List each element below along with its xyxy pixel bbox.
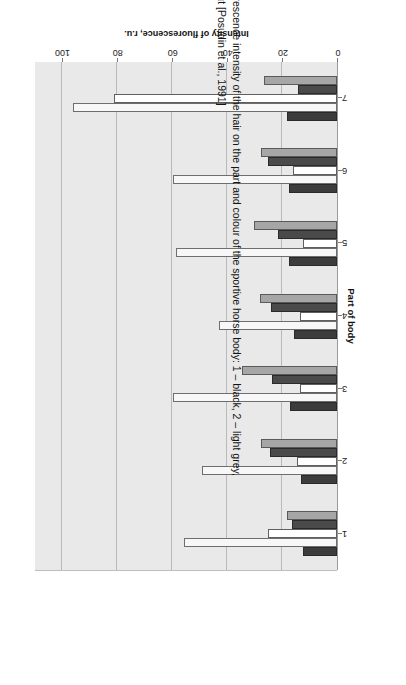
value-axis-tick-label: 0 (335, 48, 340, 58)
caption-text-1: Dependence of the fluorescence intensity… (231, 0, 243, 476)
category-axis-tick-mark (338, 97, 342, 98)
value-axis-tick-label: 20 (278, 48, 288, 58)
category-axis-tick-label: 7 (342, 93, 356, 103)
chart-rotated-wrapper: Part of body Intensity of fluorescence, … (0, 0, 360, 685)
value-axis-tick-mark (172, 58, 173, 62)
category-axis-tick-label: 3 (342, 384, 356, 394)
category-axis-tick-label: 4 (342, 311, 356, 321)
figure-caption: Fig. 7.17Dependence of the fluorescence … (214, 0, 244, 481)
category-axis-title: Part of body (98, 62, 406, 570)
category-axis-tick-label: 6 (342, 166, 356, 176)
category-axis-tick-mark (338, 533, 342, 534)
category-axis-tick-mark (338, 242, 342, 243)
category-axis-tick-label: 1 (342, 529, 356, 539)
value-axis-tick-label: 80 (113, 48, 123, 58)
caption-line-2: 3 – dark grey, 4 – bay, 5 – chestnut [Po… (214, 0, 229, 481)
value-axis-tick-mark (337, 58, 338, 62)
value-axis-tick-mark (282, 58, 283, 62)
value-axis-tick-mark (117, 58, 118, 62)
category-axis-tick-label: 5 (342, 238, 356, 248)
value-axis-title: Intensity of fluorescence, r.u. (35, 29, 338, 39)
value-axis-tick-label: 60 (168, 48, 178, 58)
value-axis-tick-mark (62, 58, 63, 62)
category-axis-tick-mark (338, 460, 342, 461)
figure-7-17: Part of body Intensity of fluorescence, … (0, 0, 406, 685)
bar-chart: Part of body Intensity of fluorescence, … (0, 0, 360, 685)
category-axis-tick-mark (338, 170, 342, 171)
category-axis-tick-mark (338, 388, 342, 389)
category-axis-tick-mark (338, 315, 342, 316)
category-axis-tick-label: 2 (342, 456, 356, 466)
caption-line-1: Fig. 7.17Dependence of the fluorescence … (229, 0, 244, 481)
value-axis-tick-label: 100 (55, 48, 70, 58)
